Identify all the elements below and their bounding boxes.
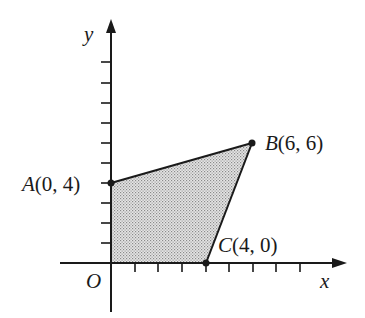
y-axis-arrow-icon (106, 19, 116, 33)
point-b-dot (249, 140, 256, 147)
y-axis-label: y (82, 22, 94, 46)
point-a-label: A(0, 4) (20, 172, 80, 196)
y-axis (101, 19, 116, 312)
point-a-dot (108, 180, 115, 187)
point-c-dot (203, 260, 210, 267)
x-axis-label: x (319, 269, 330, 293)
coordinate-diagram: y x O A(0, 4) B(6, 6) C(4, 0) (0, 0, 365, 318)
x-axis-arrow-icon (332, 258, 347, 268)
point-b-label: B(6, 6) (265, 131, 323, 155)
origin-label: O (86, 269, 101, 293)
point-c-label: C(4, 0) (218, 233, 278, 257)
